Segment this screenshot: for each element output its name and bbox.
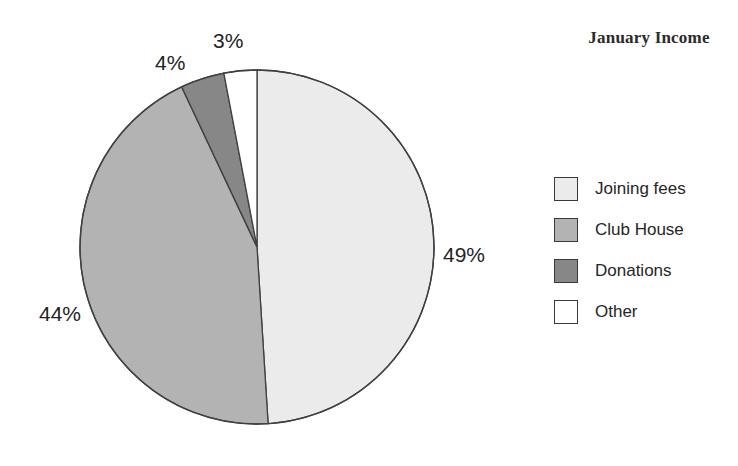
legend-label-other: Other — [595, 303, 638, 320]
legend-label-club-house: Club House — [595, 221, 684, 238]
slice-label-joining-fees: 49% — [443, 243, 485, 267]
pie-chart-figure: January Income 3% 4% 49% 44% Joining fee… — [0, 0, 738, 466]
chart-legend: Joining fees Club House Donations Other — [554, 168, 738, 332]
legend-swatch-other — [554, 300, 578, 324]
legend-swatch-donations — [554, 259, 578, 283]
pie-slices-group — [80, 70, 434, 424]
legend-swatch-joining-fees — [554, 177, 578, 201]
legend-label-joining-fees: Joining fees — [595, 180, 686, 197]
slice-label-donations: 4% — [155, 51, 185, 75]
pie-slice-joining-fees — [257, 70, 434, 424]
slice-label-club-house: 44% — [39, 302, 81, 326]
chart-title: January Income — [560, 28, 738, 48]
legend-item-donations: Donations — [554, 250, 738, 291]
legend-item-joining-fees: Joining fees — [554, 168, 738, 209]
legend-item-club-house: Club House — [554, 209, 738, 250]
legend-item-other: Other — [554, 291, 738, 332]
pie-svg — [0, 0, 530, 466]
legend-swatch-club-house — [554, 218, 578, 242]
legend-label-donations: Donations — [595, 262, 672, 279]
pie-plot-area — [0, 0, 530, 466]
slice-label-other: 3% — [213, 29, 243, 53]
